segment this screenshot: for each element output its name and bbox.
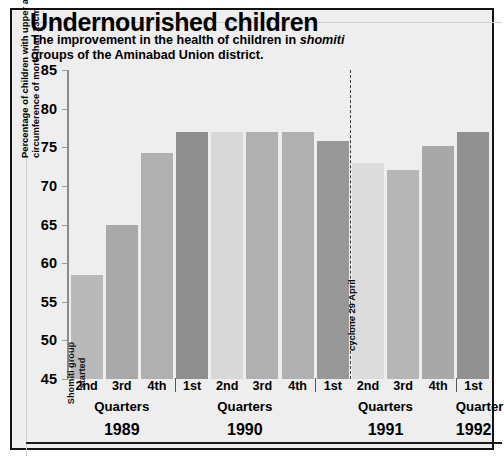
x-axis-quarter-label: 4th (421, 379, 456, 393)
bar (211, 132, 243, 379)
x-axis-quarter-label: 3rd (104, 379, 139, 393)
y-axis-tick-label: 45 (17, 372, 57, 387)
y-axis-tick (62, 147, 68, 148)
y-axis-tick-label: 85 (17, 63, 57, 78)
bar (422, 146, 454, 379)
cyclone-divider-line: cyclone 29 April (350, 70, 351, 379)
x-axis-quarter-label: 2nd (350, 379, 385, 393)
x-axis-group-label: Quarters (175, 399, 316, 414)
y-axis-tick (62, 302, 68, 303)
y-axis-tick (62, 186, 68, 187)
y-axis-title-line-2: circumference of more than 13cm (30, 0, 41, 158)
x-axis-group-year: 1992 (456, 421, 491, 439)
bar (106, 225, 138, 379)
subtitle-part-1: The improvement in the health of childre… (31, 33, 300, 47)
x-axis-group-separator (456, 378, 457, 392)
x-axis-group-label: Quarters (69, 399, 175, 414)
plot-area: Percentage of children with upper arm ci… (67, 70, 491, 379)
y-axis-tick (62, 263, 68, 264)
x-axis-group-label: Quarters (456, 399, 491, 414)
subtitle-part-2: groups of the Aminabad Union district. (31, 48, 264, 62)
y-axis-tick-label: 55 (17, 295, 57, 310)
y-axis-tick (62, 70, 68, 71)
x-axis-quarter-label: 3rd (386, 379, 421, 393)
cyclone-divider-label: cyclone 29 April (346, 279, 357, 351)
x-axis-quarter-label: 4th (139, 379, 174, 393)
y-axis-tick-label: 80 (17, 102, 57, 117)
x-axis-quarter-label: 3rd (245, 379, 280, 393)
x-axis-quarter-label: 2nd (210, 379, 245, 393)
y-axis-tick-label: 65 (17, 218, 57, 233)
y-axis-tick (62, 225, 68, 226)
y-axis-tick-label: 50 (17, 333, 57, 348)
y-axis-tick-label: 60 (17, 256, 57, 271)
x-axis-quarter-label: 1st (456, 379, 491, 393)
x-axis-quarter-label: 2nd (69, 379, 104, 393)
x-axis-group-label: Quarters (315, 399, 456, 414)
x-axis-group: 2nd3rd4th1st2nd3rd4th1st2nd3rd4th1stQuar… (69, 379, 491, 455)
x-axis-group-year: 1989 (69, 421, 175, 439)
y-axis-title-line-1: Percentage of children with upper arm (19, 0, 30, 158)
x-axis-group-year: 1990 (175, 421, 316, 439)
x-axis-quarter-label: 1st (175, 379, 210, 393)
subtitle: The improvement in the health of childre… (31, 33, 361, 63)
bar: Shomiti groupstarted (71, 275, 103, 379)
y-axis-title: Percentage of children with upper arm ci… (19, 0, 41, 158)
x-axis-quarter-label: 4th (280, 379, 315, 393)
x-axis-group-separator (315, 378, 316, 392)
bar (317, 141, 349, 379)
bar-series: Shomiti groupstarted (69, 70, 491, 379)
y-axis-tick (62, 109, 68, 110)
y-axis-tick-label: 75 (17, 140, 57, 155)
bar (246, 132, 278, 379)
y-axis-tick-label: 70 (17, 179, 57, 194)
chart-screenshot: Undernourished children The improvement … (0, 0, 504, 459)
bar (457, 132, 489, 379)
x-axis-quarter-label: 1st (315, 379, 350, 393)
subtitle-italic-term: shomiti (300, 33, 345, 47)
bar (141, 153, 173, 379)
bar (387, 170, 419, 379)
x-axis-group-separator (175, 378, 176, 392)
bar (176, 132, 208, 379)
bar (282, 132, 314, 379)
x-axis-group-year: 1991 (315, 421, 456, 439)
